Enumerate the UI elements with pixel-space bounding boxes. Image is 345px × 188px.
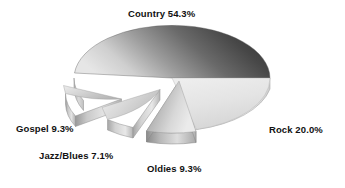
slice-label-jazz-blues: Jazz/Blues 7.1% — [39, 150, 113, 161]
pie-chart: Country 54.3% Rock 20.0% Oldies 9.3% Jaz… — [0, 0, 345, 188]
slice-label-rock: Rock 20.0% — [269, 124, 323, 135]
slice-label-gospel: Gospel 9.3% — [16, 123, 74, 134]
gospel-slice-top — [64, 86, 122, 100]
gospel-slice-side-arc — [66, 94, 76, 127]
slice-label-country: Country 54.3% — [128, 8, 195, 19]
jazz-slice-side-arc — [108, 120, 134, 139]
country-slice-top — [75, 25, 271, 78]
slice-label-oldies: Oldies 9.3% — [147, 163, 201, 174]
